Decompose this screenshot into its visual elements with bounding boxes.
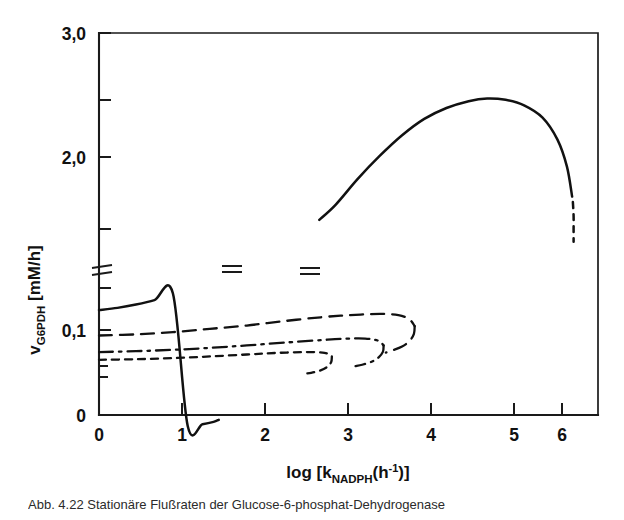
y-ticklabel-0-1: 0,1 [62, 321, 87, 341]
curve-short-dash-outward [99, 352, 332, 360]
curve-solid-dashed-tail [573, 202, 574, 242]
curve-short-dash-return [305, 356, 332, 373]
y-axis-title-tail: [mM/h] [25, 245, 44, 305]
chart-canvas: 3,0 2,0 0,1 0 0 1 2 3 4 5 6 vG6PDH [mM/h… [0, 0, 624, 520]
y-ticklabel-3-0: 3,0 [62, 24, 87, 44]
y-ticklabel-0: 0 [76, 406, 86, 426]
x-ticklabel-1: 1 [177, 425, 187, 445]
y-axis-ticks [99, 33, 111, 415]
svg-text:vG6PDH [mM/h]: vG6PDH [mM/h] [25, 245, 47, 355]
curve-long-dash-outward [99, 314, 415, 336]
curve-dash-dot-return [356, 345, 384, 366]
figure-caption: Abb. 4.22 Stationäre Flußraten der Gluco… [28, 497, 608, 512]
y-ticklabel-2-0: 2,0 [62, 148, 87, 168]
x-axis-title-superscript: -1 [389, 462, 399, 474]
x-ticklabel-6: 6 [557, 425, 567, 445]
x-ticklabel-5: 5 [509, 425, 519, 445]
x-ticklabel-3: 3 [343, 425, 353, 445]
x-ticklabel-2: 2 [260, 425, 270, 445]
y-axis-title: vG6PDH [mM/h] [25, 245, 47, 355]
x-axis-ticks [99, 403, 562, 415]
x-axis-title-tail: )] [398, 463, 409, 482]
curve-break-marker-right [300, 268, 320, 274]
figure-container: 3,0 2,0 0,1 0 0 1 2 3 4 5 6 vG6PDH [mM/h… [0, 0, 624, 520]
x-axis-title-lead: log [k [286, 463, 332, 482]
x-ticklabel-4: 4 [426, 425, 436, 445]
y-axis-break-marker [92, 265, 112, 275]
series-group [99, 98, 574, 435]
curve-dash-dot-outward [99, 338, 384, 352]
x-axis-title-subscript: NADPH [332, 473, 373, 485]
y-axis-title-subscript: G6PDH [35, 306, 47, 346]
plot-frame [99, 33, 598, 415]
curve-break-marker-left [222, 266, 242, 272]
x-axis-title-mid: (h [373, 463, 389, 482]
curve-long-dash-return [386, 326, 415, 353]
x-axis-title: log [kNADPH(h-1)] [286, 462, 409, 485]
x-ticklabel-0: 0 [94, 425, 104, 445]
curve-solid-upper-branch [319, 98, 572, 219]
